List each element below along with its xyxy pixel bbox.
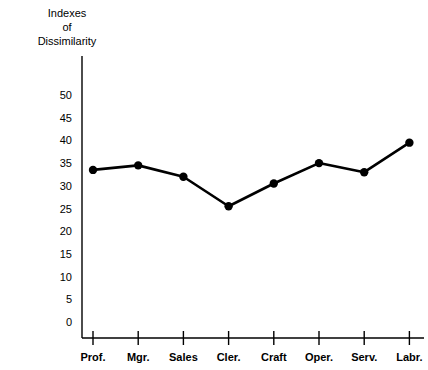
data-point-marker [89, 166, 97, 174]
x-axis-tick-label: Mgr. [127, 351, 150, 363]
y-axis-tick-label: 25 [60, 203, 72, 215]
y-axis-tick-label: 5 [66, 293, 72, 305]
data-point-marker [134, 161, 142, 169]
y-axis-tick-label: 35 [60, 157, 72, 169]
x-axis-tick-label: Prof. [80, 351, 105, 363]
x-axis-tick-label: Cler. [217, 351, 241, 363]
data-point-marker [405, 138, 413, 146]
line-chart-plot: 05101520253035404550 Prof.Mgr.SalesCler.… [0, 0, 428, 370]
y-axis-tick-labels: 05101520253035404550 [60, 89, 72, 328]
data-point-marker [224, 202, 232, 210]
y-axis-tick-label: 20 [60, 225, 72, 237]
x-axis-tick-label: Craft [261, 351, 287, 363]
y-axis-tick-label: 45 [60, 112, 72, 124]
x-axis-tick-label: Oper. [305, 351, 333, 363]
x-axis-tick-label: Labr. [396, 351, 422, 363]
chart-figure: Indexes of Dissimilarity 051015202530354… [0, 0, 428, 370]
data-point-marker [179, 173, 187, 181]
x-axis-tick-labels: Prof.Mgr.SalesCler.CraftOper.Serv.Labr. [80, 351, 422, 363]
data-point-marker [360, 168, 368, 176]
y-axis-tick-label: 0 [66, 316, 72, 328]
y-axis-tick-label: 10 [60, 271, 72, 283]
y-axis-tick-label: 30 [60, 180, 72, 192]
x-axis-tick-label: Serv. [351, 351, 377, 363]
data-series-markers [89, 138, 414, 210]
y-axis-tick-label: 50 [60, 89, 72, 101]
data-point-marker [270, 179, 278, 187]
y-axis-tick-label: 15 [60, 248, 72, 260]
x-axis-tick-label: Sales [169, 351, 198, 363]
data-point-marker [315, 159, 323, 167]
y-axis-tick-label: 40 [60, 134, 72, 146]
